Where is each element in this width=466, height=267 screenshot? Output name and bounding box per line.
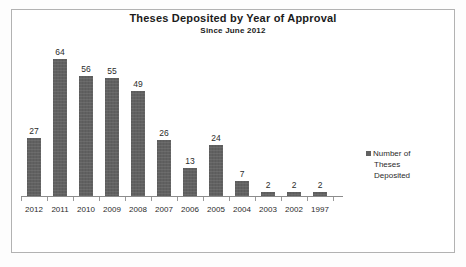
legend-item: Number of Theses Deposited [366,148,446,181]
x-axis-tick [177,197,178,201]
bar[interactable] [261,192,275,196]
legend-text-1: Number of [373,149,410,158]
bar[interactable] [53,59,67,196]
bar-group[interactable]: 24 [204,145,228,196]
chart-figure: Theses Deposited by Year of Approval Sin… [0,0,466,267]
bar[interactable] [157,140,171,196]
bar-value-label: 55 [100,66,124,76]
bar-group[interactable]: 2 [308,192,332,196]
bar-value-label: 13 [178,156,202,166]
bar[interactable] [313,192,327,196]
bar[interactable] [105,78,119,196]
bar-value-label: 56 [74,64,98,74]
chart-subtitle: Since June 2012 [0,26,466,35]
x-axis-label: 2008 [125,205,151,214]
x-axis-label: 2009 [99,205,125,214]
bar[interactable] [235,181,249,196]
x-axis-label: 2010 [73,205,99,214]
x-axis-label: 2007 [151,205,177,214]
bar-value-label: 7 [230,169,254,179]
x-axis-tick [47,197,48,201]
bar[interactable] [79,76,93,196]
bar[interactable] [287,192,301,196]
legend-label-line-2: Theses [366,159,446,170]
bar[interactable] [183,168,197,196]
bar[interactable] [209,145,223,196]
bar-value-label: 64 [48,47,72,57]
x-axis-label: 2012 [21,205,47,214]
bar-value-label: 27 [22,126,46,136]
chart-title: Theses Deposited by Year of Approval [0,12,466,24]
bar-value-label: 2 [282,180,306,190]
x-axis-label: 2002 [281,205,307,214]
legend-label-line-3: Deposited [366,170,446,181]
x-axis-tick [281,197,282,201]
bar-group[interactable]: 55 [100,78,124,196]
x-axis-tick [151,197,152,201]
bar-group[interactable]: 56 [74,76,98,196]
bar-group[interactable]: 2 [256,192,280,196]
bar-group[interactable]: 49 [126,91,150,196]
bar[interactable] [27,138,41,196]
x-axis-label: 1997 [307,205,333,214]
x-axis-label: 2011 [47,205,73,214]
bar-value-label: 49 [126,79,150,89]
x-axis-tick [203,197,204,201]
x-axis-tick [125,197,126,201]
x-axis-label: 2005 [203,205,229,214]
bar-value-label: 2 [256,180,280,190]
bar-value-label: 26 [152,128,176,138]
square-marker-icon [366,151,371,156]
chart-legend: Number of Theses Deposited [366,148,446,181]
x-axis-tick [99,197,100,201]
bar-value-label: 24 [204,133,228,143]
bar-group[interactable]: 26 [152,140,176,196]
x-axis-label: 2003 [255,205,281,214]
x-axis-tick [255,197,256,201]
legend-label-line-1: Number of [366,148,446,159]
x-axis-label: 2004 [229,205,255,214]
x-axis-tick [307,197,308,201]
bar-group[interactable]: 7 [230,181,254,196]
bar-group[interactable]: 64 [48,59,72,196]
bar-group[interactable]: 13 [178,168,202,196]
plot-area: 2720126420115620105520094920082620071320… [17,38,347,234]
x-axis-line [21,196,343,197]
x-axis-tick [333,197,334,201]
bar-value-label: 2 [308,180,332,190]
bar[interactable] [131,91,145,196]
x-axis-label: 2006 [177,205,203,214]
bar-group[interactable]: 27 [22,138,46,196]
x-axis-tick [21,197,22,201]
x-axis-tick [229,197,230,201]
bar-group[interactable]: 2 [282,192,306,196]
x-axis-tick [73,197,74,201]
